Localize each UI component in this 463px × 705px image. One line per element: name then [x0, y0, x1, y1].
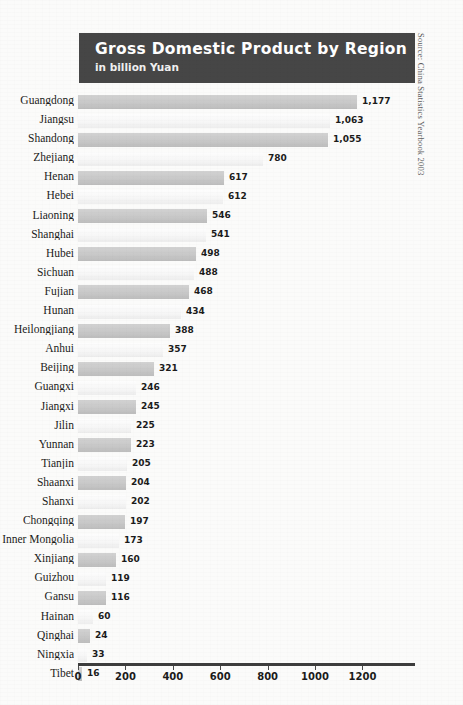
chart-row: Shaanxi204	[0, 474, 463, 493]
bar-value-label: 1,177	[362, 96, 390, 106]
axis-tick-mark	[268, 666, 269, 670]
chart-row: Inner Mongolia173	[0, 531, 463, 550]
bar	[78, 457, 127, 471]
bar-value-label: 223	[136, 439, 155, 449]
chart-row: Tianjin205	[0, 455, 463, 474]
bar	[78, 324, 170, 338]
bar-value-label: 1,063	[335, 115, 363, 125]
bar-category-label: Yunnan	[0, 438, 74, 450]
bar	[78, 591, 106, 605]
bar-category-label: Fujian	[0, 285, 74, 297]
bar-value-label: 119	[111, 573, 130, 583]
bar	[78, 190, 223, 204]
bar	[78, 133, 328, 147]
bar-category-label: Hubei	[0, 247, 74, 259]
chart-row: Xinjiang160	[0, 550, 463, 569]
bar-track: 225	[78, 419, 463, 433]
bar-track: 612	[78, 190, 463, 204]
bar-track: 1,177	[78, 95, 463, 109]
chart-row: Anhui357	[0, 340, 463, 359]
chart-row: Jiangxi245	[0, 398, 463, 417]
bar	[78, 610, 93, 624]
axis-tick-label: 200	[115, 671, 136, 682]
chart-subtitle: in billion Yuan	[95, 60, 415, 75]
bar-category-label: Xinjiang	[0, 552, 74, 564]
chart-row: Chongqing197	[0, 512, 463, 531]
bar-category-label: Guizhou	[0, 571, 74, 583]
chart-row: Shandong1,055	[0, 130, 463, 149]
bar-track: 204	[78, 476, 463, 490]
bar-track: 223	[78, 438, 463, 452]
bar-track: 202	[78, 495, 463, 509]
bar-track: 498	[78, 247, 463, 261]
chart-row: Hebei612	[0, 187, 463, 206]
bar-chart: Guangdong1,177Jiangsu1,063Shandong1,055Z…	[0, 92, 463, 684]
chart-row: Hunan434	[0, 302, 463, 321]
chart-row: Yunnan223	[0, 436, 463, 455]
bar-category-label: Jilin	[0, 419, 74, 431]
bar-value-label: 357	[168, 344, 187, 354]
chart-row: Ningxia33	[0, 646, 463, 665]
bar-track: 617	[78, 171, 463, 185]
bar-category-label: Tianjin	[0, 457, 74, 469]
bar	[78, 381, 136, 395]
bar-track: 1,055	[78, 133, 463, 147]
bar-category-label: Gansu	[0, 590, 74, 602]
bar	[78, 553, 116, 567]
bar	[78, 534, 119, 548]
bar-track: 116	[78, 591, 463, 605]
bar-category-label: Hebei	[0, 189, 74, 201]
bar-category-label: Guangxi	[0, 380, 74, 392]
bar	[78, 266, 194, 280]
axis-tick-mark	[173, 666, 174, 670]
bar-track: 160	[78, 553, 463, 567]
bar-track: 60	[78, 610, 463, 624]
bar	[78, 285, 189, 299]
bar	[78, 95, 357, 109]
bar-track: 24	[78, 629, 463, 643]
bar-value-label: 488	[199, 267, 218, 277]
bar	[78, 648, 87, 662]
bar	[78, 343, 163, 357]
bar-category-label: Guangdong	[0, 94, 74, 106]
bar-track: 1,063	[78, 114, 463, 128]
bar-category-label: Beijing	[0, 361, 74, 373]
axis-tick-label: 1000	[301, 671, 329, 682]
bar-track: 197	[78, 515, 463, 529]
bar-value-label: 173	[124, 535, 143, 545]
bar-track: 205	[78, 457, 463, 471]
bar-value-label: 780	[268, 153, 287, 163]
bar-value-label: 204	[131, 477, 150, 487]
bar-value-label: 197	[130, 516, 149, 526]
bar-value-label: 60	[98, 611, 111, 621]
axis-tick-label: 0	[75, 671, 82, 682]
chart-row: Liaoning546	[0, 207, 463, 226]
chart-row: Guangdong1,177	[0, 92, 463, 111]
bar-value-label: 245	[141, 401, 160, 411]
axis-tick-label: 400	[162, 671, 183, 682]
bar-value-label: 246	[141, 382, 160, 392]
axis-tick-label: 1200	[349, 671, 377, 682]
bar-track: 434	[78, 305, 463, 319]
bar	[78, 419, 131, 433]
bar-track: 546	[78, 209, 463, 223]
bar-value-label: 202	[131, 496, 150, 506]
bar-value-label: 434	[186, 306, 205, 316]
bar	[78, 572, 106, 586]
bar	[78, 209, 207, 223]
chart-row: Sichuan488	[0, 264, 463, 283]
bar-value-label: 225	[136, 420, 155, 430]
bar-category-label: Hunan	[0, 304, 74, 316]
bar-track: 245	[78, 400, 463, 414]
chart-page: Gross Domestic Product by Region in bill…	[0, 0, 463, 705]
bar-category-label: Ningxia	[0, 648, 74, 660]
chart-row: Gansu116	[0, 588, 463, 607]
bar-track: 119	[78, 572, 463, 586]
bar-category-label: Anhui	[0, 342, 74, 354]
bar	[78, 515, 125, 529]
axis-tick-mark	[315, 666, 316, 670]
bar-track: 780	[78, 152, 463, 166]
bar	[78, 305, 181, 319]
bar-value-label: 546	[212, 210, 231, 220]
bar-track: 357	[78, 343, 463, 357]
